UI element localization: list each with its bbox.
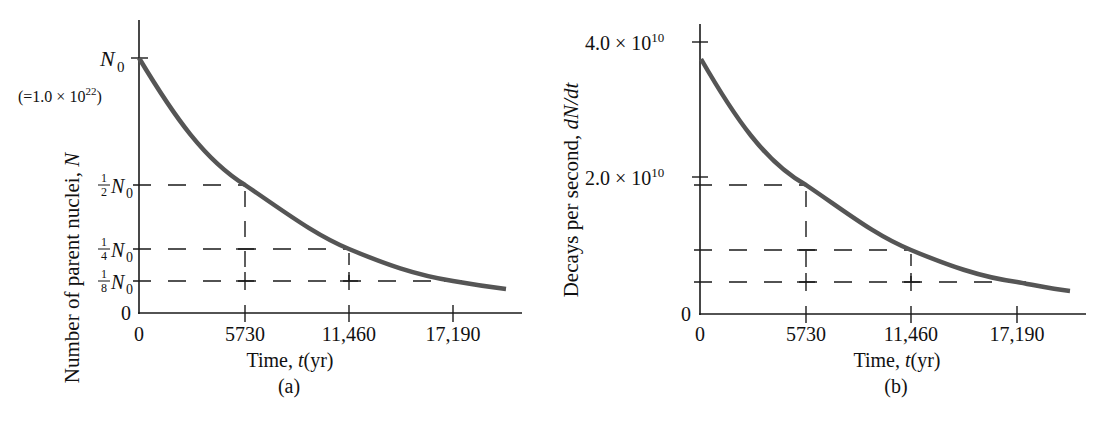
label-n0: N bbox=[99, 46, 116, 71]
svg-text:0: 0 bbox=[126, 282, 133, 297]
panel-b-x-axis-title: Time, t(yr) bbox=[853, 349, 940, 372]
svg-text:11,460: 11,460 bbox=[884, 323, 938, 345]
svg-text:N: N bbox=[110, 175, 126, 197]
svg-text:2: 2 bbox=[101, 185, 107, 199]
svg-text:8: 8 bbox=[101, 281, 107, 295]
svg-text:0: 0 bbox=[126, 186, 133, 201]
svg-text:0: 0 bbox=[121, 302, 131, 324]
svg-text:4: 4 bbox=[101, 249, 107, 263]
svg-text:0: 0 bbox=[117, 59, 125, 75]
svg-text:1: 1 bbox=[101, 235, 107, 249]
svg-text:5730: 5730 bbox=[786, 323, 826, 345]
panel-b-y-axis-title: Decays per second, dN/dt bbox=[559, 82, 583, 298]
label-n0-value: (=1.0 × 1022) bbox=[18, 85, 102, 106]
panel-b: 4.0 × 1010 2.0 × 1010 0 Decays per secon… bbox=[559, 24, 1086, 398]
panel-a-y-axis-title: Number of parent nuclei, N bbox=[60, 152, 84, 383]
svg-text:17,190: 17,190 bbox=[426, 323, 481, 345]
panel-b-decay-rate-curve bbox=[701, 59, 1070, 291]
svg-text:0: 0 bbox=[134, 323, 144, 345]
panel-b-x-tick-labels: 0 5730 11,460 17,190 bbox=[695, 323, 1045, 345]
svg-text:N: N bbox=[110, 239, 126, 261]
panel-a-x-tick-labels: 0 5730 11,460 17,190 bbox=[134, 323, 481, 345]
svg-text:5730: 5730 bbox=[225, 323, 265, 345]
svg-text:1: 1 bbox=[101, 267, 107, 281]
panel-a-reference-lines bbox=[133, 185, 453, 281]
svg-text:1: 1 bbox=[101, 171, 107, 185]
panel-b-y-tick-labels: 4.0 × 1010 2.0 × 1010 0 bbox=[585, 30, 691, 325]
svg-text:0: 0 bbox=[681, 303, 691, 325]
panel-a: N 0 (=1.0 × 1022) 1 2 N 0 1 4 N 0 1 8 N … bbox=[18, 20, 522, 398]
panel-b-reference-lines bbox=[694, 185, 1017, 282]
panel-b-caption: (b) bbox=[884, 375, 907, 398]
svg-text:0: 0 bbox=[126, 250, 133, 265]
svg-text:N: N bbox=[110, 271, 126, 293]
svg-text:17,190: 17,190 bbox=[990, 323, 1045, 345]
svg-text:2.0 × 1010: 2.0 × 1010 bbox=[585, 165, 664, 189]
figure-canvas: N 0 (=1.0 × 1022) 1 2 N 0 1 4 N 0 1 8 N … bbox=[0, 0, 1102, 429]
svg-text:4.0 × 1010: 4.0 × 1010 bbox=[585, 30, 664, 54]
panel-a-decay-curve bbox=[139, 58, 506, 289]
svg-text:11,460: 11,460 bbox=[322, 323, 376, 345]
panel-a-x-axis-title: Time, t(yr) bbox=[246, 349, 333, 372]
svg-text:0: 0 bbox=[695, 323, 705, 345]
panel-a-caption: (a) bbox=[278, 375, 300, 398]
